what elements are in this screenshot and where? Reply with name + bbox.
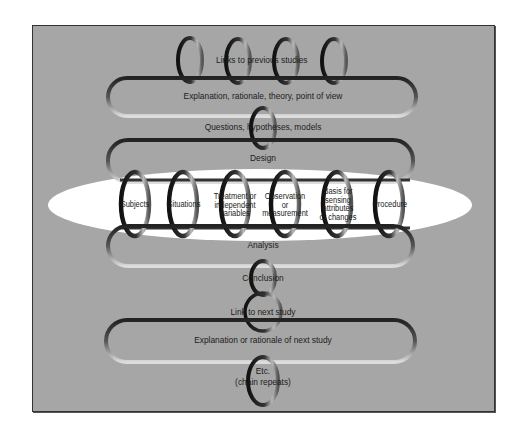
component-procedure: Procedure xyxy=(365,200,414,209)
component-observation: Observation or measurement xyxy=(259,192,312,218)
label-conclusion: Conclusion xyxy=(230,273,297,283)
label-analysis: Analysis xyxy=(230,240,297,250)
label-questions: Questions, hypotheses, models xyxy=(199,122,327,132)
ring-icon xyxy=(178,38,202,82)
label-design: Design xyxy=(234,153,292,163)
component-basis: Basis for sensing attributes or changes xyxy=(313,187,362,221)
component-situations: Situations xyxy=(163,200,205,209)
label-link-next: Link to next study xyxy=(221,307,305,317)
label-etc: Etc. xyxy=(238,366,287,376)
label-etc-sub: (chain repeats) xyxy=(225,377,301,387)
component-treatment: Treatment or independent variables xyxy=(209,192,262,218)
component-subjects: Subjects xyxy=(115,200,155,209)
label-explanation: Explanation, rationale, theory, point of… xyxy=(164,91,363,101)
label-links-previous: Links to previous studies xyxy=(216,55,304,65)
label-explanation-next: Explanation or rationale of next study xyxy=(172,335,353,345)
